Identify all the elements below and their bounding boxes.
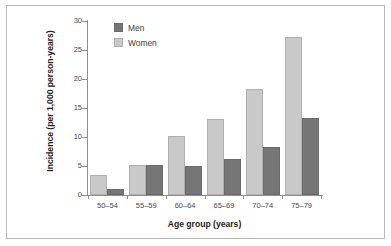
y-tick-label: 15 <box>58 104 82 112</box>
bar-women-55-59 <box>129 165 146 195</box>
chart-figure: Incidence (per 1,000 person-years) 05101… <box>0 0 391 246</box>
y-tick-mark <box>82 137 87 138</box>
x-tick-mark <box>321 196 322 199</box>
legend-item-women: Women <box>114 36 157 49</box>
bar-women-60-64 <box>168 136 185 195</box>
bar-women-65-69 <box>207 119 224 195</box>
y-tick-label: 5 <box>58 162 82 170</box>
y-tick-mark <box>82 50 87 51</box>
bar-men-65-69 <box>224 159 241 195</box>
legend-label-men: Men <box>128 23 144 33</box>
bar-men-50-54 <box>107 189 124 195</box>
bar-group <box>246 21 280 195</box>
y-tick-label: 20 <box>58 75 82 83</box>
bar-men-60-64 <box>185 166 202 195</box>
y-tick-label: 30 <box>58 17 82 25</box>
x-tick-label: 60–64 <box>163 201 207 210</box>
legend-swatch-women <box>114 38 123 47</box>
bar-men-75-79 <box>302 118 319 195</box>
x-tick-label: 70–74 <box>241 201 285 210</box>
x-tick-mark <box>282 196 283 199</box>
x-tick-mark <box>243 196 244 199</box>
x-tick-label: 50–54 <box>85 201 129 210</box>
bar-group <box>168 21 202 195</box>
bar-men-55-59 <box>146 165 163 195</box>
y-tick-mark <box>82 166 87 167</box>
x-tick-mark <box>127 196 128 199</box>
bar-men-70-74 <box>263 147 280 195</box>
x-tick-mark <box>166 196 167 199</box>
y-tick-mark <box>82 21 87 22</box>
legend-item-men: Men <box>114 21 157 34</box>
chart-legend: Men Women <box>114 21 157 51</box>
legend-label-women: Women <box>128 38 157 48</box>
y-tick-mark <box>82 195 87 196</box>
bar-group <box>285 21 319 195</box>
bar-women-50-54 <box>90 175 107 195</box>
x-tick-label: 75–79 <box>280 201 324 210</box>
y-tick-mark <box>82 108 87 109</box>
bar-women-70-74 <box>246 89 263 195</box>
x-axis-title: Age group (years) <box>88 219 321 229</box>
legend-swatch-men <box>114 23 123 32</box>
x-tick-label: 65–69 <box>202 201 246 210</box>
y-axis-title: Incidence (per 1,000 person-years) <box>45 13 55 189</box>
y-tick-mark <box>82 79 87 80</box>
bar-group <box>207 21 241 195</box>
bar-women-75-79 <box>285 37 302 195</box>
x-tick-label: 55–59 <box>124 201 168 210</box>
y-tick-label: 0 <box>58 191 82 199</box>
y-tick-label: 25 <box>58 46 82 54</box>
y-tick-label: 10 <box>58 133 82 141</box>
x-tick-mark <box>88 196 89 199</box>
x-tick-mark <box>205 196 206 199</box>
